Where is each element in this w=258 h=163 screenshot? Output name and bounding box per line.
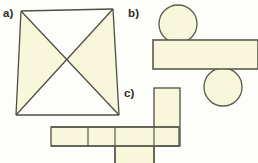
figure-canvas xyxy=(0,0,258,163)
geometry-figure: a) b) c) xyxy=(0,0,258,163)
horizontal-bar xyxy=(153,40,258,69)
part-label-b: b) xyxy=(128,8,139,20)
circle-bottom xyxy=(204,68,242,106)
part-a-star xyxy=(16,9,119,115)
part-label-c: c) xyxy=(124,88,135,100)
circle-top xyxy=(159,5,197,43)
part-label-a: a) xyxy=(3,8,14,20)
star-edge-top xyxy=(21,9,113,11)
